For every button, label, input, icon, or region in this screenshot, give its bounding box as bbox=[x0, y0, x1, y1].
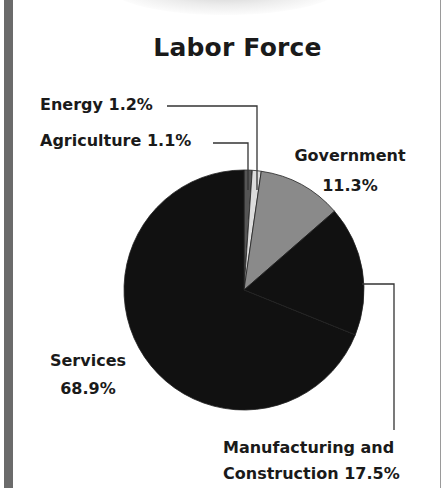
manufacturing-label-line1: Manufacturing and bbox=[223, 438, 394, 458]
government-label-value: 11.3% bbox=[280, 176, 420, 196]
manufacturing-leader-line bbox=[362, 284, 394, 430]
manufacturing-label-line2: Construction 17.5% bbox=[223, 464, 400, 484]
pie-chart bbox=[0, 0, 442, 488]
services-label-name: Services bbox=[38, 351, 138, 371]
government-label-name: Government bbox=[280, 146, 420, 166]
energy-label: Energy 1.2% bbox=[40, 95, 153, 115]
services-label-value: 68.9% bbox=[38, 379, 138, 399]
agriculture-label: Agriculture 1.1% bbox=[40, 131, 191, 151]
pie-slices bbox=[124, 170, 364, 410]
